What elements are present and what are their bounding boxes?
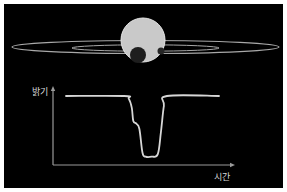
y-axis-arrow-icon	[51, 86, 55, 91]
light-curve-line	[66, 95, 219, 157]
x-axis-arrow-icon	[230, 163, 235, 167]
large-planet	[130, 47, 146, 63]
transit-diagram: 밝기 시간	[4, 4, 283, 188]
diagram-panel: 밝기 시간	[4, 4, 283, 188]
x-axis-label: 시간	[214, 172, 230, 182]
y-axis-label: 밝기	[32, 87, 48, 97]
light-curve-chart: 밝기 시간	[32, 86, 235, 182]
small-planet	[158, 48, 165, 55]
star-system	[121, 18, 165, 63]
